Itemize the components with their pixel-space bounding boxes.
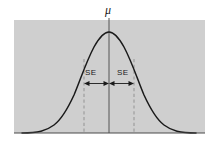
se-right-label: SE — [117, 69, 128, 77]
standard-error-figure: μ SE SE — [0, 0, 217, 145]
distribution-plot — [0, 0, 217, 145]
se-left-label: SE — [85, 69, 96, 77]
mean-symbol-label: μ — [105, 4, 111, 16]
